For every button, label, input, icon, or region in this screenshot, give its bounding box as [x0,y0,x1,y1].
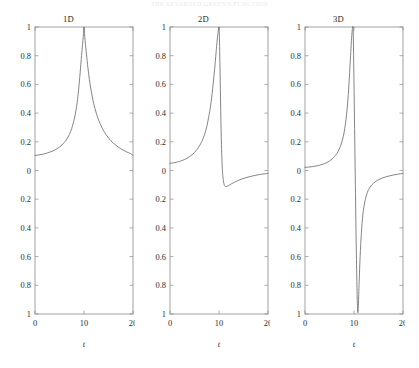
y-tick-label: 0.6 [291,80,301,89]
x-tick-label: 0 [168,319,172,328]
y-tick-label: 0.2 [21,195,31,204]
y-tick-label: 0.4 [156,109,167,118]
plot-axes-1d [35,27,133,314]
y-tick-label: 0.4 [291,224,302,233]
y-ticks-2d [170,27,268,314]
y-tick-label: 0.6 [21,253,31,262]
y-tick-label: 0 [297,167,301,176]
y-tick-label: 1 [297,310,301,319]
x-axis-label-2d: t [218,340,221,349]
plot-frame-2d [170,27,268,314]
y-tick-label: 0.8 [291,281,301,290]
y-tick-labels-1d: 10.80.60.40.200.20.40.60.81 [21,23,32,319]
y-tick-label: 0.6 [156,253,166,262]
y-ticks-1d [35,27,133,314]
y-tick-label: 1 [27,23,31,32]
y-tick-label: 0.6 [21,80,31,89]
y-tick-label: 1 [162,23,166,32]
y-tick-label: 0.8 [291,52,301,61]
plot-panel-1d: 1D 10.80.60.40.200.20.40.60.81 01020 t [2,14,135,354]
y-tick-label: 0.2 [21,138,31,147]
y-tick-label: 0.6 [291,253,301,262]
figure-container: THE RETARDED GREEN'S FUNCTION 1D 10.80.6… [0,0,419,368]
plot-svg-3d: 10.80.60.40.200.20.40.60.81 01020 t [272,14,405,354]
plot-axes-2d [170,27,268,314]
x-tick-labels-3d: 01020 [303,319,405,328]
y-tick-label: 0.8 [156,281,166,290]
plot-svg-2d: 10.80.60.40.200.20.40.60.81 01020 t [137,14,270,354]
x-tick-label: 20 [129,319,135,328]
y-tick-labels-3d: 10.80.60.40.200.20.40.60.81 [291,23,302,319]
data-curve-2d [170,27,268,187]
x-ticks-1d [35,27,133,314]
x-tick-label: 20 [264,319,270,328]
y-tick-label: 0.4 [21,109,32,118]
x-ticks-2d [170,27,268,314]
x-axis-label-3d: t [353,340,356,349]
x-tick-label: 10 [80,319,88,328]
x-tick-label: 0 [303,319,307,328]
y-tick-label: 0.2 [156,195,166,204]
y-tick-label: 0.8 [21,281,31,290]
data-curve-1d [35,27,133,155]
y-tick-label: 0.6 [156,80,166,89]
y-tick-label: 0 [162,167,166,176]
plot-panel-3d: 3D 10.80.60.40.200.20.40.60.81 01020 t [272,14,405,354]
x-tick-label: 0 [33,319,37,328]
x-tick-label: 10 [215,319,223,328]
y-tick-label: 0.4 [156,224,167,233]
running-header: THE RETARDED GREEN'S FUNCTION [0,0,419,7]
x-tick-labels-2d: 01020 [168,319,270,328]
x-axis-label-1d: t [83,340,86,349]
data-curve-3d [305,27,403,313]
y-tick-label: 0.2 [291,138,301,147]
y-tick-label: 0.4 [291,109,302,118]
y-tick-label: 0.2 [156,138,166,147]
y-tick-label: 0.8 [156,52,166,61]
plot-frame-1d [35,27,133,314]
x-tick-label: 20 [399,319,405,328]
y-tick-label: 0.2 [291,195,301,204]
y-tick-label: 1 [297,23,301,32]
y-tick-label: 1 [27,310,31,319]
y-tick-label: 0.8 [21,52,31,61]
y-tick-label: 1 [162,310,166,319]
y-tick-labels-2d: 10.80.60.40.200.20.40.60.81 [156,23,167,319]
y-tick-label: 0.4 [21,224,32,233]
x-tick-label: 10 [350,319,358,328]
x-tick-labels-1d: 01020 [33,319,135,328]
plot-panel-2d: 2D 10.80.60.40.200.20.40.60.81 01020 t [137,14,270,354]
y-tick-label: 0 [27,167,31,176]
plot-svg-1d: 10.80.60.40.200.20.40.60.81 01020 t [2,14,135,354]
